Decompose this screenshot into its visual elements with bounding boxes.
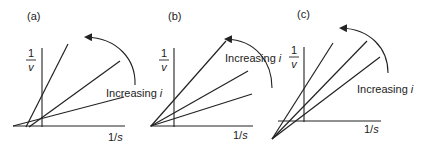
annotation-increasing-i: Increasing i xyxy=(357,83,414,95)
panel-a: (a) 1 v 1/s Increasing i xyxy=(13,10,163,143)
line-mid-inhibitor xyxy=(151,71,248,126)
inhibition-plots-figure: (a) 1 v 1/s Increasing i (b) 1 v 1/s Inc… xyxy=(0,0,425,147)
line-no-inhibitor xyxy=(13,97,124,126)
x-axis-label: 1/s xyxy=(233,129,248,141)
increasing-arrow-icon xyxy=(341,28,388,73)
panel-c: (c) 1 v 1/s Increasing i xyxy=(272,8,414,139)
line-mid-inhibitor xyxy=(272,41,367,139)
panel-label: (b) xyxy=(168,10,181,22)
y-axis-label-denominator: v xyxy=(161,61,168,73)
y-axis-label-denominator: v xyxy=(28,61,35,73)
annotation-increasing-i: Increasing i xyxy=(225,52,282,64)
y-axis-label-denominator: v xyxy=(291,58,298,70)
annotation-increasing-i: Increasing i xyxy=(106,87,163,99)
panel-label: (c) xyxy=(297,8,310,20)
line-no-inhibitor xyxy=(151,94,252,126)
x-axis-label: 1/s xyxy=(108,131,123,143)
x-axis-label: 1/s xyxy=(364,123,379,135)
y-axis-label-numerator: 1 xyxy=(161,47,167,59)
panel-b: (b) 1 v 1/s Increasing i xyxy=(150,10,282,141)
increasing-arrow-icon xyxy=(86,37,135,85)
panel-label: (a) xyxy=(27,10,40,22)
y-axis-label-numerator: 1 xyxy=(28,47,34,59)
y-axis-label-numerator: 1 xyxy=(291,44,297,56)
